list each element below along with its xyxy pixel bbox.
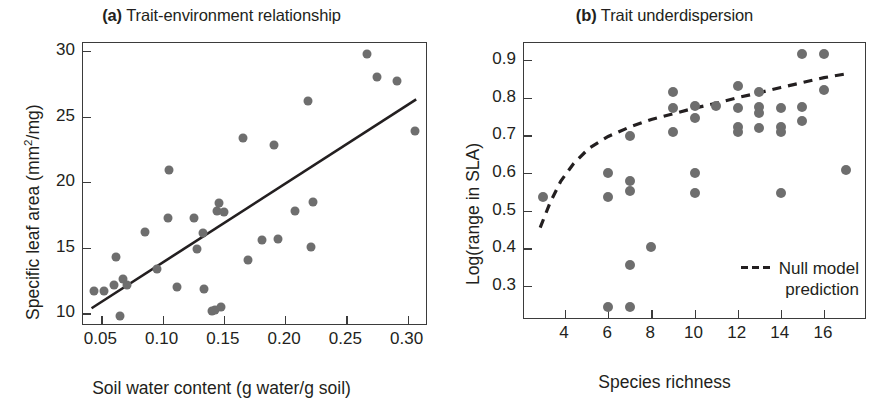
data-point [99, 287, 108, 296]
data-point [668, 87, 678, 97]
data-point [625, 186, 635, 196]
panel-b-title-text: Trait underdispersion [601, 6, 753, 24]
data-point [797, 102, 807, 112]
panel-a-y-axis-title-post: /mg) [23, 104, 43, 139]
data-point [200, 284, 209, 293]
y-tick-label: 0.8 [492, 87, 516, 107]
panel-a-title-text: Trait-environment relationship [126, 6, 341, 24]
data-point [603, 168, 613, 178]
data-point [711, 101, 721, 111]
x-tick-label: 4 [559, 323, 568, 343]
dashed-line-icon [741, 258, 773, 275]
data-point [625, 131, 635, 141]
data-point [754, 87, 764, 97]
y-tick-label: 25 [56, 106, 75, 126]
figure-container: (a) Trait-environment relationship Speci… [0, 0, 886, 409]
panel-a-tag: (a) [102, 6, 122, 24]
data-point [819, 49, 829, 59]
data-point [776, 188, 786, 198]
data-point [797, 49, 807, 59]
data-point [190, 213, 199, 222]
panel-b: (b) Trait underdispersion Log(range in S… [443, 0, 886, 409]
data-point [819, 85, 829, 95]
data-point [776, 103, 786, 113]
data-point [733, 127, 743, 137]
panel-a-x-axis-title: Soil water content (g water/g soil) [0, 378, 443, 399]
panel-b-x-axis-title: Species richness [443, 372, 886, 393]
data-point [690, 101, 700, 111]
panel-b-title: (b) Trait underdispersion [443, 6, 886, 25]
y-tick-label: 0.9 [492, 49, 516, 69]
data-point [363, 49, 372, 58]
data-point [646, 242, 656, 252]
x-tick-label: 0.20 [268, 329, 301, 349]
data-point [797, 116, 807, 126]
data-point [603, 192, 613, 202]
panel-b-y-axis-title: Log(range in SLA) [463, 143, 484, 285]
y-tick-label: 20 [56, 171, 75, 191]
x-tick-label: 12 [727, 323, 746, 343]
data-point [733, 103, 743, 113]
panel-a: (a) Trait-environment relationship Speci… [0, 0, 443, 409]
data-point [538, 192, 548, 202]
data-point [199, 229, 208, 238]
data-point [214, 199, 223, 208]
panel-a-plot-frame [82, 42, 427, 325]
plot-lines-layer [83, 43, 426, 324]
x-tick-label: 14 [770, 323, 789, 343]
data-point [690, 113, 700, 123]
panel-b-legend-label: Null model prediction [779, 258, 859, 300]
data-point [270, 141, 279, 150]
data-point [163, 213, 172, 222]
data-point [123, 280, 132, 289]
data-point [625, 260, 635, 270]
x-tick-label: 0.10 [145, 329, 178, 349]
data-point [112, 253, 121, 262]
data-point [309, 197, 318, 206]
data-point [173, 283, 182, 292]
data-point [304, 96, 313, 105]
data-point [776, 127, 786, 137]
y-tick-label: 0.7 [492, 124, 516, 144]
data-point [141, 228, 150, 237]
y-tick-label: 15 [56, 237, 75, 257]
data-point [625, 176, 635, 186]
panel-a-y-axis-title-sup: 2 [22, 139, 34, 145]
data-point [164, 166, 173, 175]
data-point [410, 126, 419, 135]
data-point [373, 73, 382, 82]
x-tick-label: 8 [646, 323, 655, 343]
panel-b-plot-frame: Null model prediction [523, 42, 866, 319]
data-point [109, 280, 118, 289]
data-point [217, 302, 226, 311]
data-point [668, 127, 678, 137]
data-point [273, 234, 282, 243]
data-point [603, 302, 613, 312]
panel-b-legend: Null model prediction [741, 258, 859, 300]
data-point [668, 103, 678, 113]
regression-line [92, 99, 417, 308]
panel-a-y-axis-title-pre: Specific leaf area (mm [23, 146, 43, 320]
data-point [244, 255, 253, 264]
data-point [754, 123, 764, 133]
data-point [733, 81, 743, 91]
x-tick-label: 10 [684, 323, 703, 343]
data-point [257, 235, 266, 244]
x-tick-label: 0.05 [84, 329, 117, 349]
x-tick-label: 16 [814, 323, 833, 343]
y-tick-label: 0.6 [492, 162, 516, 182]
data-point [90, 287, 99, 296]
data-point [754, 108, 764, 118]
data-point [219, 208, 228, 217]
x-tick-label: 0.15 [206, 329, 239, 349]
data-point [690, 168, 700, 178]
panel-b-tag: (b) [576, 6, 597, 24]
data-point [690, 188, 700, 198]
data-point [192, 245, 201, 254]
panel-a-title: (a) Trait-environment relationship [0, 6, 443, 25]
data-point [306, 242, 315, 251]
data-point [115, 312, 124, 321]
y-tick-label: 30 [56, 40, 75, 60]
panel-a-y-axis-title: Specific leaf area (mm2/mg) [22, 104, 44, 320]
data-point [841, 165, 851, 175]
